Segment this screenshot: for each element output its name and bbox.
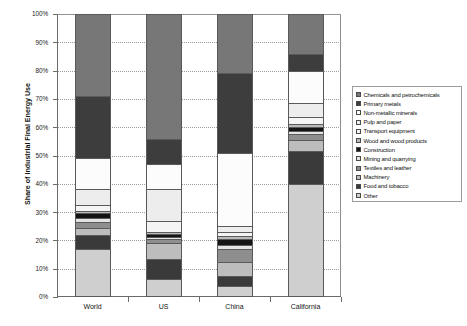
y-tick-mark — [53, 240, 58, 241]
legend-swatch-icon — [356, 166, 361, 171]
legend-label: Textiles and leather — [364, 165, 412, 171]
bar-segment[interactable] — [289, 151, 323, 184]
legend-swatch-icon — [356, 120, 361, 125]
x-tick-label-world: World — [58, 303, 128, 310]
y-tick-label: 100% — [22, 10, 48, 17]
bar-segment[interactable] — [218, 276, 252, 286]
chart-legend: Chemicals and petrochemicalsPrimary meta… — [352, 86, 462, 202]
legend-item-pulp-and-paper[interactable]: Pulp and paper — [356, 118, 459, 127]
bar-segment[interactable] — [289, 103, 323, 117]
x-tick-mark — [341, 297, 342, 302]
bar-segment[interactable] — [76, 235, 110, 249]
y-axis-title: Share of Industrial Final Energy Use — [24, 49, 32, 239]
x-tick-mark — [128, 297, 129, 302]
legend-label: Machinery — [364, 174, 390, 180]
bar-segment[interactable] — [147, 14, 181, 139]
bar-segment[interactable] — [147, 243, 181, 259]
legend-label: Chemicals and petrochemicals — [364, 92, 440, 98]
legend-item-mining-and-quarrying[interactable]: Mining and quarrying — [356, 154, 459, 163]
legend-swatch-icon — [356, 156, 361, 161]
bar-segment[interactable] — [76, 249, 110, 297]
bar-segment[interactable] — [76, 189, 110, 205]
bar-segment[interactable] — [289, 14, 323, 54]
bar-segment[interactable] — [147, 221, 181, 232]
bar-segment[interactable] — [218, 286, 252, 297]
legend-label: Pulp and paper — [364, 119, 402, 125]
bar-world[interactable] — [75, 14, 111, 297]
bar-segment[interactable] — [289, 71, 323, 104]
legend-item-non-metallic-minerals[interactable]: Non-metallic minerals — [356, 108, 459, 117]
bar-us[interactable] — [146, 14, 182, 297]
bar-california[interactable] — [288, 14, 324, 297]
y-tick-label: 10% — [22, 265, 48, 272]
bar-segment[interactable] — [218, 153, 252, 227]
bar-segment[interactable] — [147, 164, 181, 189]
y-tick-mark — [53, 71, 58, 72]
legend-swatch-icon — [356, 193, 361, 198]
stacked-bar-chart: 0%10%20%30%40%50%60%70%80%90%100% Share … — [0, 0, 467, 326]
y-tick-mark — [53, 184, 58, 185]
legend-item-primary-metals[interactable]: Primary metals — [356, 99, 459, 108]
legend-item-transport-equipment[interactable]: Transport equipment — [356, 127, 459, 136]
bar-segment[interactable] — [147, 189, 181, 220]
bar-segment[interactable] — [289, 54, 323, 71]
legend-item-construction[interactable]: Construction — [356, 145, 459, 154]
x-tick-label-us: US — [129, 303, 199, 310]
bar-segment[interactable] — [289, 184, 323, 297]
legend-swatch-icon — [356, 92, 361, 97]
legend-item-other[interactable]: Other — [356, 191, 459, 200]
legend-swatch-icon — [356, 138, 361, 143]
legend-label: Non-metallic minerals — [364, 110, 417, 116]
legend-label: Transport equipment — [364, 128, 415, 134]
bar-segment[interactable] — [218, 262, 252, 276]
y-tick-label: 0% — [22, 293, 48, 300]
x-tick-label-california: California — [271, 303, 341, 310]
bar-segment[interactable] — [218, 249, 252, 262]
y-tick-mark — [53, 269, 58, 270]
y-tick-mark — [53, 212, 58, 213]
y-tick-label: 90% — [22, 39, 48, 46]
bar-segment[interactable] — [289, 140, 323, 151]
y-tick-mark — [53, 127, 58, 128]
y-tick-mark — [53, 297, 58, 298]
legend-item-wood-and-wood-products[interactable]: Wood and wood products — [356, 136, 459, 145]
bar-segment[interactable] — [147, 279, 181, 297]
legend-swatch-icon — [356, 184, 361, 189]
legend-label: Wood and wood products — [364, 138, 427, 144]
x-tick-mark — [199, 297, 200, 302]
legend-label: Primary metals — [364, 101, 401, 107]
legend-item-machinery[interactable]: Machinery — [356, 173, 459, 182]
x-tick-mark — [270, 297, 271, 302]
legend-label: Other — [364, 193, 378, 199]
legend-label: Construction — [364, 147, 395, 153]
legend-swatch-icon — [356, 175, 361, 180]
bar-segment[interactable] — [147, 139, 181, 164]
y-tick-mark — [53, 42, 58, 43]
bar-segment[interactable] — [218, 73, 252, 152]
legend-swatch-icon — [356, 129, 361, 134]
legend-item-food-and-tobacco[interactable]: Food and tobacco — [356, 182, 459, 191]
y-tick-mark — [53, 156, 58, 157]
legend-swatch-icon — [356, 147, 361, 152]
y-tick-mark — [53, 14, 58, 15]
bar-segment[interactable] — [76, 96, 110, 158]
bar-segment[interactable] — [76, 228, 110, 235]
legend-label: Food and tobacco — [364, 183, 409, 189]
legend-swatch-icon — [356, 101, 361, 106]
legend-label: Mining and quarrying — [364, 156, 416, 162]
bar-segment[interactable] — [218, 14, 252, 73]
y-tick-mark — [53, 99, 58, 100]
legend-item-chemicals-and-petrochemicals[interactable]: Chemicals and petrochemicals — [356, 90, 459, 99]
bar-segment[interactable] — [147, 259, 181, 279]
x-tick-label-china: China — [200, 303, 270, 310]
bar-segment[interactable] — [76, 158, 110, 189]
legend-item-textiles-and-leather[interactable]: Textiles and leather — [356, 164, 459, 173]
bar-segment[interactable] — [289, 117, 323, 124]
bar-china[interactable] — [217, 14, 253, 297]
legend-swatch-icon — [356, 110, 361, 115]
bar-segment[interactable] — [76, 14, 110, 96]
